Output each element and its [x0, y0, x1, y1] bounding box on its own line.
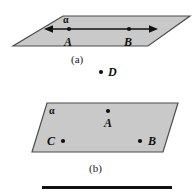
point-label-b-panel-b: B [148, 135, 156, 147]
panel-a-group [13, 16, 190, 46]
point-b-dot-panel-b [138, 139, 142, 143]
geometry-figure: α A B (a) D α A C B (b) [0, 0, 193, 196]
point-label-d: D [108, 66, 117, 78]
point-label-b-panel-a: B [124, 36, 132, 48]
point-b-dot-panel-a [127, 27, 131, 31]
point-c-dot-panel-b [61, 139, 65, 143]
point-label-a-panel-a: A [64, 36, 72, 48]
point-d-dot [99, 70, 103, 74]
plane-label-alpha-b: α [49, 106, 55, 116]
point-a-dot-panel-a [67, 27, 71, 31]
point-a-dot-panel-b [106, 109, 110, 113]
caption-panel-a: (a) [71, 54, 83, 65]
point-label-a-panel-b: A [104, 117, 112, 129]
caption-panel-b: (b) [89, 163, 102, 174]
point-label-c-panel-b: C [47, 135, 55, 147]
plane-alpha-a [13, 16, 190, 46]
plane-label-alpha-a: α [63, 15, 69, 25]
